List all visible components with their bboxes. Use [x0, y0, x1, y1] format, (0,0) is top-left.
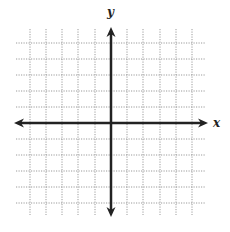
- y-axis-label: y: [107, 6, 114, 18]
- coordinate-plane: [0, 0, 230, 232]
- x-axis-label: x: [213, 117, 220, 129]
- axes: [14, 27, 208, 217]
